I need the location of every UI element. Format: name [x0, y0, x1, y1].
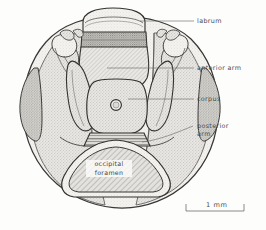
scale-bar-label: 1 mm [206, 201, 228, 209]
label-posterior-arm-line2: arm [197, 130, 211, 138]
head-illustration [0, 0, 266, 230]
label-occipital-foramen-line1: occipital [94, 160, 123, 167]
anatomical-figure: labrum anterior arm corpus posterior arm… [0, 0, 266, 230]
clypeus-band [81, 32, 147, 48]
label-labrum: labrum [197, 17, 222, 25]
label-anterior-arm: anterior arm [197, 64, 241, 72]
label-occipital-foramen: occipital foramen [86, 160, 132, 177]
label-corpus: corpus [197, 95, 221, 103]
label-posterior-arm-line1: posterior [197, 122, 229, 130]
label-occipital-foramen-line2: foramen [95, 169, 124, 176]
corpus [87, 79, 147, 134]
left-eye-lobe [20, 68, 42, 141]
label-posterior-arm: posterior arm [197, 122, 243, 138]
